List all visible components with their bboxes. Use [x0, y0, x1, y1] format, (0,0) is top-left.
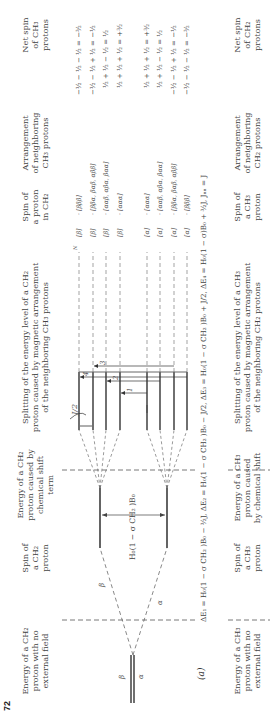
bottom-header-splitting: Splitting of the energy level of a CH₃ p…	[232, 255, 262, 440]
header-line: Splitting of the energy level of a CH₃	[232, 255, 242, 440]
row-net-spin: ½ + ½ − ½ = ½	[102, 30, 110, 88]
arrangement-value: [βββ]	[183, 195, 190, 211]
arrowhead-icon	[107, 379, 111, 383]
beta-fan	[79, 430, 120, 488]
row-proton-spin: [β]	[116, 228, 124, 237]
arrowhead-icon	[121, 391, 125, 395]
header-line: of the neighboring CH₂ protons	[252, 255, 262, 440]
alpha-fan	[147, 430, 187, 488]
header-line: a CH₃	[242, 182, 252, 232]
arrangement-value: [βββ]	[75, 195, 82, 211]
arrangement-value: [ββα, βαβ, αββ]	[170, 163, 177, 211]
row-arrangement: · [ββα, βαβ, αββ]	[170, 163, 178, 215]
header-line: Arrangement	[232, 104, 242, 182]
shift-label: H₀(1 − σ CH₂ )B₀	[128, 494, 137, 560]
row-arrangement: · [ααβ, αβα, βαα]	[102, 162, 110, 215]
bottom-header-spin-ch3: Spin of a CH₃ proton	[232, 533, 262, 583]
header-line: Energy of a CH₃	[232, 621, 242, 701]
header-line: proton with no	[242, 621, 252, 701]
zero-field-beta-label: β	[118, 675, 126, 679]
arrowhead-icon	[102, 513, 107, 517]
level-continuations	[79, 252, 187, 372]
header-line: proton	[252, 182, 262, 232]
row-proton-spin: [β]	[102, 228, 110, 237]
row-net-spin: ½ + ½ + ½ = +³⁄₂	[116, 24, 124, 88]
row-arrangement: · [ββα, βαβ, αββ]	[89, 163, 97, 215]
half-j-label: J/2	[70, 404, 79, 415]
row-proton-spin: [α]	[143, 228, 151, 237]
bottom-header-net-spin: Net spin of CH₂ protons	[232, 5, 262, 65]
figure-label: (a)	[196, 668, 206, 680]
bottom-header-spin-proton: Spin of a CH₃ proton	[232, 182, 262, 232]
transition-3-label: 3	[99, 361, 107, 365]
n-marker: N	[72, 246, 78, 250]
row-proton-spin: [α]	[170, 228, 178, 237]
row-arrangement: · [βββ]	[75, 195, 83, 215]
row-arrangement: · [ααβ, αβα, βαα]	[156, 162, 164, 215]
arrangement-value: [ααα]	[143, 193, 150, 211]
row-net-spin: ½ + ½ + ½ = +³⁄₂	[143, 24, 151, 88]
alpha-branch-label: α	[156, 600, 164, 605]
row-proton-spin: [β]	[89, 228, 97, 237]
energy-equation: ΔE₁ = H₀(1 − σ CH₂ )B₀ − ³⁄₂J, ΔE₂ = H₀(…	[199, 175, 208, 622]
header-line: Spin of	[232, 182, 242, 232]
row-proton-spin: [α]	[156, 228, 164, 237]
header-line: Energy of a CH₃	[232, 443, 242, 533]
row-arrangement: · [ααα]	[116, 193, 124, 215]
arrangement-value: [ββα, βαβ, αββ]	[89, 163, 96, 211]
header-line: proton caused by magnetic arrangement	[242, 255, 252, 440]
bottom-header-arrangement: Arrangement of neighboring CH₂ protons	[232, 104, 262, 182]
row-arrangement: · [ααα]	[143, 193, 151, 215]
transition-4-label: 4	[82, 372, 90, 376]
row-net-spin: ½ + ½ − ½ = ½	[156, 30, 164, 88]
header-line: by chemical shift	[252, 443, 262, 533]
row-proton-spin: [β]	[75, 228, 83, 237]
zero-field-alpha-label: α	[137, 674, 145, 679]
bottom-header-energy-no-field: Energy of a CH₃ proton with no external …	[232, 621, 262, 701]
header-line: a CH₃	[242, 533, 252, 583]
row-arrangement: · [βββ]	[183, 195, 191, 215]
header-line: of neighboring	[242, 104, 252, 182]
arrowhead-icon	[94, 364, 98, 368]
bottom-header-chemical-shift: Energy of a CH₃ proton caused by chemica…	[232, 443, 262, 533]
row-net-spin: −½ − ½ − ½ = −³⁄₂	[183, 25, 191, 95]
beta-branch-label: β	[98, 583, 106, 587]
row-proton-spin: [α]	[183, 228, 191, 237]
beta-branch	[100, 548, 133, 655]
row-net-spin: −½ − ½ + ½ = −½	[89, 25, 97, 95]
transition-2-label: 2	[112, 376, 120, 380]
header-line: Net spin	[232, 5, 242, 65]
arrowhead-icon	[160, 513, 165, 517]
header-line: proton caused	[242, 443, 252, 533]
header-line: Spin of	[232, 533, 242, 583]
header-line: of CH₂	[242, 5, 252, 65]
row-net-spin: −½ − ½ − ½ = −³⁄₂	[75, 25, 83, 95]
arrangement-value: [ααβ, αβα, βαα]	[156, 162, 163, 211]
header-line: protons	[252, 5, 262, 65]
header-line: external field	[252, 621, 262, 701]
arrangement-value: [ααβ, αβα, βαα]	[102, 162, 109, 211]
header-line: proton	[252, 533, 262, 583]
transition-1-label: 1	[126, 388, 134, 392]
header-line: CH₂ protons	[252, 104, 262, 182]
arrangement-value: [ααα]	[116, 193, 123, 211]
row-net-spin: −½ − ½ + ½ = −½	[170, 25, 178, 95]
rotated-textbook-page: 72 Energy of a CH₂ proton with no extern…	[0, 0, 277, 715]
